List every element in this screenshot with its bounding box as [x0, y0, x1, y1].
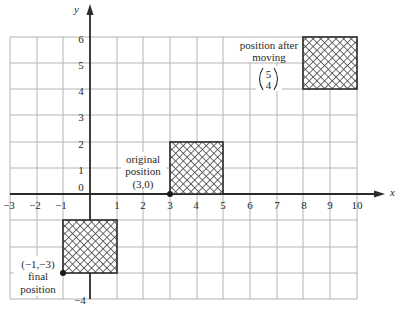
original-point-marker — [167, 191, 173, 197]
after-label-line2: moving — [252, 51, 286, 63]
y-tick-label: 0 — [78, 181, 84, 193]
x-tick-label: 6 — [247, 199, 253, 211]
x-tick-labels: −3 −2 −1 1 2 3 4 5 6 7 8 9 10 — [3, 199, 363, 211]
x-tick-label: −2 — [29, 199, 41, 211]
x-tick-label: 2 — [140, 199, 146, 211]
x-tick-label: 7 — [274, 199, 280, 211]
x-tick-label: 10 — [352, 199, 364, 211]
final-square — [63, 220, 117, 273]
moved-square — [303, 37, 357, 89]
x-axis-name: x — [389, 186, 395, 198]
x-tick-label: 8 — [301, 199, 307, 211]
original-label-line1: original — [126, 153, 160, 165]
after-label-line1: position after — [240, 39, 299, 51]
y-tick-label: 3 — [78, 111, 84, 123]
final-point-marker — [60, 270, 66, 276]
final-label-line2: position — [20, 283, 56, 295]
x-tick-label: 9 — [327, 199, 333, 211]
x-tick-label: 1 — [114, 199, 120, 211]
after-moving-label: position after moving 5 4 — [240, 39, 299, 91]
x-tick-label: 3 — [167, 199, 173, 211]
y-tick-label: −4 — [74, 294, 86, 306]
x-tick-label: 4 — [193, 199, 199, 211]
y-axis-arrow-icon — [87, 4, 94, 15]
final-label-line1: final — [28, 270, 48, 282]
x-axis-arrow-icon — [374, 191, 385, 198]
original-label-line2: position — [125, 165, 161, 177]
y-tick-label: 1 — [78, 164, 84, 176]
original-label-coord: (3,0) — [132, 178, 153, 191]
y-tick-label: 4 — [78, 85, 84, 97]
x-tick-label: 5 — [220, 199, 226, 211]
x-tick-label: −3 — [3, 199, 15, 211]
x-tick-label: −1 — [55, 199, 67, 211]
vector-bottom: 4 — [266, 79, 272, 91]
y-axis-name: y — [73, 3, 79, 15]
y-tick-label: 2 — [78, 138, 84, 150]
y-tick-label: 6 — [78, 33, 84, 45]
original-square — [170, 142, 223, 194]
coordinate-diagram: x y −3 −2 −1 1 2 3 4 5 6 7 8 9 10 6 5 4 … — [0, 0, 398, 315]
y-tick-label: 5 — [78, 59, 84, 71]
